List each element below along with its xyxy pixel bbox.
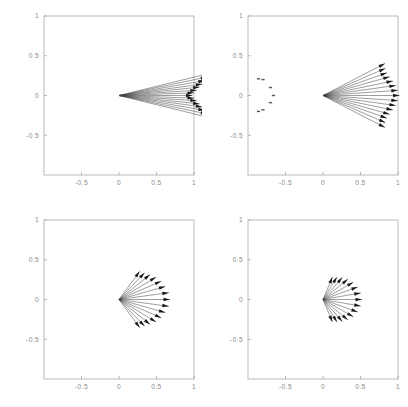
arrow-head bbox=[332, 316, 337, 322]
arrow-head bbox=[354, 292, 361, 295]
arrow-head bbox=[378, 63, 385, 67]
arrow-group bbox=[119, 73, 204, 118]
x-tick-label: 0 bbox=[321, 179, 325, 186]
arrow-head bbox=[164, 298, 171, 301]
y-tick-label: -0.5 bbox=[26, 132, 39, 139]
arrow-head bbox=[196, 83, 203, 86]
arrow-shaft bbox=[119, 300, 165, 313]
x-tick-label: 0.5 bbox=[355, 179, 365, 186]
panel-bottom-left: -0.500.51-0.500.51 bbox=[0, 204, 204, 407]
arrow-shaft bbox=[119, 286, 165, 299]
arrow-head bbox=[389, 85, 396, 88]
arrow-head bbox=[196, 104, 203, 107]
arrow-head bbox=[162, 292, 169, 295]
y-tick-label: 0 bbox=[239, 296, 243, 303]
panel-top-left-canvas: -0.500.51-0.500.51 bbox=[0, 0, 204, 203]
arrow-head bbox=[328, 315, 332, 322]
arrow-head bbox=[380, 73, 387, 77]
panel-bottom-right: -0.500.51-0.500.51 bbox=[204, 204, 408, 407]
x-tick-label: 0 bbox=[117, 179, 121, 186]
arrow-head bbox=[391, 98, 398, 101]
x-tick-label: -0.5 bbox=[279, 383, 292, 390]
x-tick-label: -0.5 bbox=[75, 179, 88, 186]
arrow-shaft bbox=[119, 96, 204, 118]
figure-grid: -0.500.51-0.500.51-0.500.51-0.500.51-0.5… bbox=[0, 0, 408, 407]
panel-top-right-canvas: -0.500.51-0.500.51 bbox=[204, 0, 408, 203]
x-tick-label: 1 bbox=[192, 383, 196, 390]
y-tick-label: 0 bbox=[35, 296, 39, 303]
x-tick-label: 0.5 bbox=[355, 383, 365, 390]
x-tick-label: 0 bbox=[117, 383, 121, 390]
x-tick-label: -0.5 bbox=[279, 179, 292, 186]
x-tick-label: 1 bbox=[396, 179, 400, 186]
scatter-mark bbox=[257, 78, 260, 79]
panel-top-left: -0.500.51-0.500.51 bbox=[0, 0, 204, 203]
arrow-head bbox=[386, 107, 393, 110]
arrow-shaft bbox=[323, 63, 385, 95]
arrow-head bbox=[351, 287, 358, 291]
arrow-head bbox=[155, 314, 162, 318]
arrow-head bbox=[162, 304, 169, 307]
arrow-head bbox=[135, 321, 140, 327]
x-tick-label: -0.5 bbox=[75, 383, 88, 390]
arrow-head bbox=[155, 281, 162, 285]
arrow-head bbox=[351, 308, 358, 312]
arrow-shaft bbox=[323, 96, 385, 128]
arrow-head bbox=[380, 115, 387, 119]
scatter-mark bbox=[272, 95, 275, 96]
arrow-head bbox=[159, 309, 166, 312]
arrow-group bbox=[119, 271, 170, 327]
arrow-head bbox=[393, 94, 400, 97]
arrow-head bbox=[328, 277, 332, 284]
arrow-head bbox=[347, 282, 353, 287]
arrow-head bbox=[383, 111, 390, 114]
arrow-group bbox=[323, 277, 362, 322]
scatter-mark bbox=[269, 87, 272, 88]
arrow-head bbox=[354, 303, 361, 306]
y-tick-label: 0.5 bbox=[233, 256, 243, 263]
arrow-shaft bbox=[119, 73, 204, 95]
arrow-head bbox=[190, 89, 197, 92]
arrow-head bbox=[144, 319, 150, 324]
arrow-head bbox=[186, 94, 193, 97]
y-tick-label: -0.5 bbox=[26, 336, 39, 343]
arrow-head bbox=[386, 81, 393, 84]
arrow-shaft bbox=[323, 96, 390, 115]
x-tick-label: 1 bbox=[396, 383, 400, 390]
y-tick-label: 1 bbox=[35, 216, 39, 223]
arrow-head bbox=[391, 89, 398, 92]
panel-bottom-right-canvas: -0.500.51-0.500.51 bbox=[204, 204, 408, 407]
panel-top-right: -0.500.51-0.500.51 bbox=[204, 0, 408, 203]
scatter-mark bbox=[257, 111, 260, 112]
arrow-head bbox=[379, 68, 386, 72]
y-tick-label: 0 bbox=[35, 92, 39, 99]
y-tick-label: -0.5 bbox=[230, 132, 243, 139]
arrow-head bbox=[347, 312, 353, 317]
arrow-head bbox=[135, 271, 140, 277]
arrow-head bbox=[389, 103, 396, 106]
y-tick-label: 1 bbox=[239, 216, 243, 223]
arrow-head bbox=[378, 123, 385, 127]
arrow-head bbox=[332, 277, 337, 283]
arrow-head bbox=[379, 118, 386, 122]
scatter-mark bbox=[261, 109, 264, 110]
y-tick-label: 0.5 bbox=[29, 256, 39, 263]
scatter-mark bbox=[261, 79, 264, 80]
y-tick-label: 0 bbox=[239, 92, 243, 99]
panel-bottom-left-canvas: -0.500.51-0.500.51 bbox=[0, 204, 204, 407]
arrow-shaft bbox=[323, 77, 390, 96]
arrow-head bbox=[342, 314, 348, 319]
y-tick-label: 0.5 bbox=[29, 52, 39, 59]
arrow-head bbox=[356, 298, 363, 301]
x-tick-label: 1 bbox=[192, 179, 196, 186]
arrow-head bbox=[383, 77, 390, 80]
arrow-head bbox=[190, 99, 197, 102]
arrow-head bbox=[193, 86, 200, 89]
y-tick-label: 1 bbox=[239, 12, 243, 19]
arrow-head bbox=[144, 275, 150, 280]
scatter-mark bbox=[269, 102, 272, 103]
arrow-head bbox=[193, 102, 200, 105]
arrow-head bbox=[159, 286, 166, 289]
arrow-head bbox=[150, 317, 156, 322]
y-tick-label: 1 bbox=[35, 12, 39, 19]
